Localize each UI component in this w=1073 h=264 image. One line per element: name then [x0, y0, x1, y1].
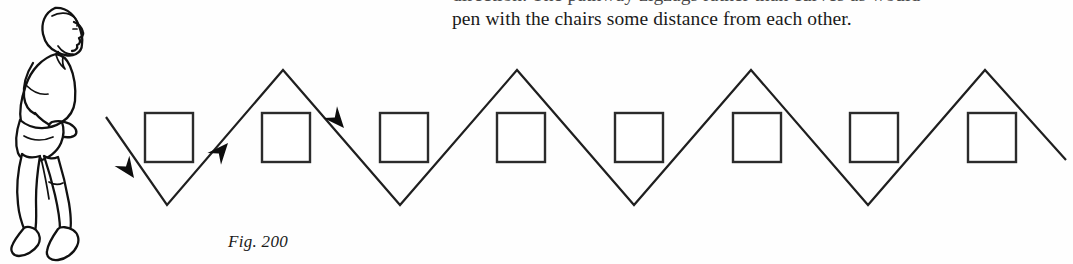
chair-square-8 — [968, 113, 1016, 162]
leg-back — [17, 154, 40, 235]
foot-front — [47, 227, 79, 260]
zigzag-pathway — [106, 70, 1066, 205]
chair-square-6 — [733, 113, 781, 162]
chair-square-3 — [380, 113, 428, 162]
foot-back — [11, 227, 39, 256]
chair-square-4 — [497, 113, 545, 162]
arrow-down-right-1 — [115, 156, 142, 184]
torso-shirt — [20, 54, 75, 132]
arrowhead-glyph — [115, 156, 142, 184]
zigzag-line — [106, 70, 1066, 205]
chair-square-2 — [262, 113, 310, 162]
figure-artwork — [0, 0, 1073, 264]
walking-man-illustration — [11, 8, 83, 260]
chair-square-7 — [850, 113, 898, 162]
chair-square-1 — [145, 113, 193, 162]
chair-square-5 — [615, 113, 663, 162]
chair-row — [145, 113, 1016, 162]
book-page: direction. The pathway zigzags rather th… — [0, 0, 1073, 264]
